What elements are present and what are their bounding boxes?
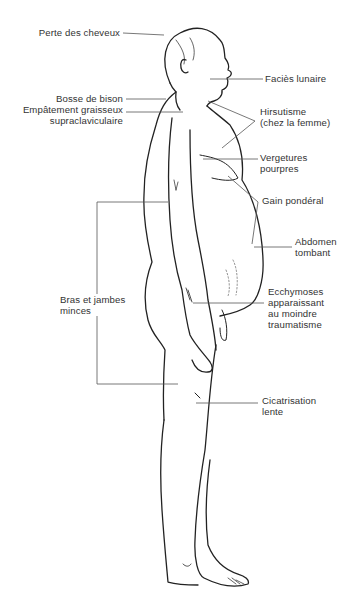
cushing-diagram: Perte des cheveux Faciès lunaire Bosse d… [0, 0, 355, 603]
stretch-marks [226, 260, 237, 296]
label-cicatrisation-lente: Cicatrisation lente [262, 395, 316, 417]
label-bosse-bison: Bosse de bison [20, 93, 123, 104]
label-empatement-graisseux: Empâtement graisseux supraclaviculaire [10, 104, 123, 126]
back-leg [161, 420, 198, 585]
label-hirsutisme: Hirsutisme (chez la femme) [260, 106, 330, 128]
pointer-gain-ponderal [228, 176, 258, 244]
label-abdomen-tombant: Abdomen tombant [295, 236, 337, 258]
head-profile [165, 28, 231, 106]
label-ecchymoses: Ecchymoses apparaissant au moindre traum… [268, 286, 324, 330]
bruise-marks [186, 288, 192, 302]
arm-front [190, 130, 216, 350]
pointer-perte-cheveux [123, 33, 164, 35]
back-outline [144, 92, 176, 420]
pointer-hirsutisme [208, 101, 255, 148]
front-leg [195, 345, 249, 586]
label-perte-cheveux: Perte des cheveux [20, 27, 120, 38]
label-gain-ponderal: Gain pondéral [262, 195, 324, 206]
bracket-bras-jambes [97, 202, 178, 384]
wound-mark [195, 393, 200, 398]
label-bras-jambes-minces: Bras et jambes minces [60, 294, 127, 316]
ankle-bone [183, 564, 191, 566]
label-facies-lunaire: Faciès lunaire [265, 73, 326, 84]
arm-hair-mark [174, 180, 178, 190]
toes [228, 578, 244, 584]
label-vergetures-pourpres: Vergetures pourpres [260, 152, 307, 174]
